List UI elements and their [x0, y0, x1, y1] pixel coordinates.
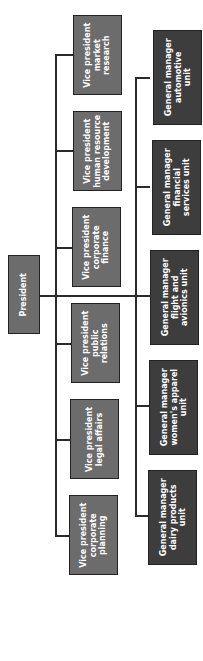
gm-financial-services-box: General manager financial services unit — [152, 140, 201, 235]
vp-dept-line2: relations — [100, 310, 110, 375]
gm-title: General manager — [163, 39, 173, 117]
vp-human-resource-development-box: Vice president human resource developmen… — [73, 111, 122, 191]
vp-dept-line2: development — [102, 114, 112, 187]
vp-title: Vice president — [79, 502, 89, 567]
gm-unit-line2: unit — [177, 479, 187, 557]
gm-trunk-line — [135, 77, 137, 517]
gm-unit-line2: avionics unit — [179, 259, 189, 337]
vp-legal-affairs-box: Vice president legal affairs — [70, 399, 119, 479]
vp-dept-line1: market — [93, 22, 103, 87]
president-connector-line — [40, 295, 150, 297]
vp-dept-line1: human resource — [93, 114, 103, 187]
president-box: President — [8, 255, 40, 334]
vp-dept-line1: corporate — [89, 502, 99, 567]
vp-dept-line1: public — [91, 310, 101, 375]
gm-automotive-box: General manager automotive unit — [153, 30, 202, 125]
gm-unit-line1: dairy products — [168, 479, 178, 557]
gm-title: General manager — [160, 259, 170, 337]
gm-unit-line1: flight and — [170, 259, 180, 337]
gm-flight-avionics-box: General manager flight and avionics unit — [150, 250, 199, 345]
gm-unit-line2: unit — [182, 39, 192, 117]
vp-title: Vice president — [83, 114, 93, 187]
gm-title: General manager — [162, 149, 172, 227]
gm-unit-line1: women's apparel — [169, 369, 179, 447]
vp-dept-line2: research — [102, 22, 112, 87]
vp-title: Vice president — [82, 214, 92, 279]
gm-dairy-products-box: General manager dairy products unit — [148, 470, 197, 565]
gm-title: General manager — [159, 369, 169, 447]
vp-connector-corporate-finance — [55, 247, 73, 249]
vp-market-research-box: Vice president market research — [73, 15, 122, 95]
vp-connector-market-research — [55, 54, 73, 56]
vp-title: Vice president — [83, 22, 93, 87]
gm-unit-line1: automotive — [173, 39, 183, 117]
gm-unit-line2: unit — [178, 369, 188, 447]
gm-unit-line2: services unit — [181, 149, 191, 227]
vp-dept-line2: planning — [98, 502, 108, 567]
vp-title: Vice president — [85, 406, 95, 471]
president-label: President — [19, 273, 28, 316]
gm-unit-line1: financial — [172, 149, 182, 227]
vp-corporate-planning-box: Vice president corporate planning — [69, 495, 118, 575]
vp-dept-line1: corporate — [92, 214, 102, 279]
gm-connector-womens-apparel — [135, 405, 150, 407]
vp-public-relations-box: Vice president public relations — [71, 303, 120, 383]
gm-womens-apparel-box: General manager women's apparel unit — [149, 360, 198, 455]
gm-connector-financial-services — [135, 186, 150, 188]
gm-connector-automotive — [135, 77, 150, 79]
gm-title: General manager — [158, 479, 168, 557]
vp-dept-line1: legal affairs — [95, 406, 105, 471]
vp-dept-line2: finance — [101, 214, 111, 279]
vp-title: Vice president — [81, 310, 91, 375]
vp-corporate-finance-box: Vice president corporate finance — [72, 207, 121, 287]
vp-connector-hr-development — [55, 150, 73, 152]
